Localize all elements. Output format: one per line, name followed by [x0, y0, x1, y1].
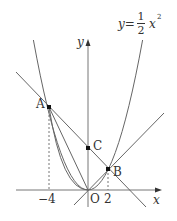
line-ao: [49, 107, 88, 190]
point-c-marker: [86, 146, 90, 150]
y-axis-label: y: [77, 36, 84, 48]
point-c-label: C: [93, 140, 102, 152]
tick-label-2: 2: [104, 193, 112, 205]
origin-label: O: [90, 193, 100, 205]
curve-label-fraction: 1 2: [137, 11, 145, 36]
x-axis-label: x: [153, 194, 160, 206]
y-axis-arrow-icon: [86, 39, 91, 46]
curve-label-exponent: 2: [157, 14, 161, 21]
diagram-graphics: [0, 0, 177, 221]
line-ab: [16, 72, 146, 207]
curve-label-var: x: [149, 18, 156, 30]
point-b-label: B: [113, 166, 122, 178]
fraction-numerator: 1: [138, 11, 145, 22]
tick-label-neg4: −4: [38, 193, 56, 205]
curve-label-lhs: y=: [118, 18, 135, 30]
point-b-marker: [106, 167, 110, 171]
point-a-label: A: [36, 98, 45, 110]
fraction-denominator: 2: [138, 25, 145, 36]
x-axis-arrow-icon: [155, 188, 162, 193]
point-a-marker: [47, 105, 51, 109]
diagram-canvas: y= 1 2 x 2 y x O −4 2 A B C: [0, 0, 177, 221]
